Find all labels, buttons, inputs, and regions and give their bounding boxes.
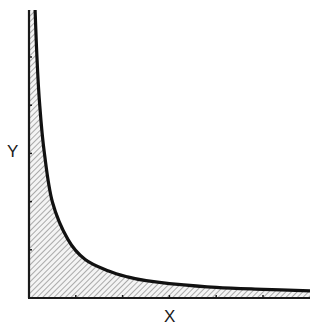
y-axis-label: Y [7,142,18,161]
hatched-area [29,10,310,298]
chart: Y X [0,0,320,330]
x-axis-label: X [164,307,175,326]
curve-line [35,10,310,291]
